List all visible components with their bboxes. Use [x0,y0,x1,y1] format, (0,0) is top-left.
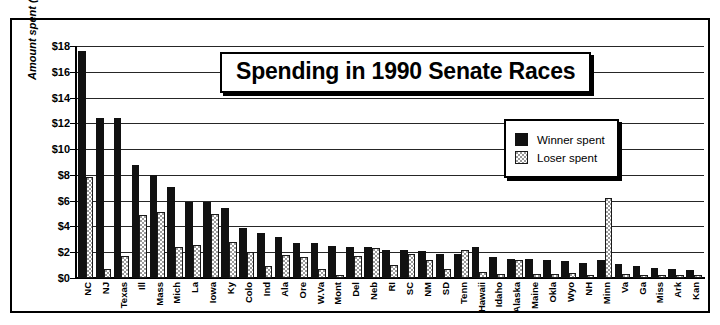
bar-loser [193,245,201,279]
x-axis-tick-label-cell: NH [579,280,597,325]
x-axis-tick-label: Maine [529,282,540,309]
x-axis-tick-label: Wyo [564,282,575,302]
bar-winner [525,259,533,278]
bar-winner [615,264,623,278]
chart-title-box: Spending in 1990 Senate Races [220,52,591,93]
bar-group [203,46,221,278]
bar-winner [597,260,605,278]
bar-loser [282,255,290,278]
x-axis-tick-label-cell: Ky [221,280,239,325]
bar-winner [346,247,354,278]
x-axis-tick-label-cell: Tenn [454,280,472,325]
x-axis-tick-label-cell: RI [382,280,400,325]
bar-loser [354,256,362,278]
bar-winner [114,118,122,278]
bar-loser [265,266,273,278]
bar-loser [658,275,666,278]
legend-label-winner: Winner spent [537,134,605,146]
x-axis-tick-label-cell: Kan [686,280,704,325]
y-axis-tick-label: $12 [30,118,70,128]
bar-winner [328,246,336,278]
x-axis-tick-label-cell: Neb [364,280,382,325]
bar-loser [86,177,94,278]
x-axis-tick-label-cell: Ala [275,280,293,325]
x-axis-tick-label: Ark [672,282,683,298]
bar-loser [229,242,237,278]
x-axis-tick-label-cell: Iowa [203,280,221,325]
bar-loser [121,256,129,278]
bar-loser [694,275,702,278]
bar-winner [167,187,175,279]
y-axis-tick-label: $10 [30,144,70,154]
bar-group [185,46,203,278]
x-axis-tick-label-cell: NM [418,280,436,325]
bar-group [114,46,132,278]
y-axis-tick-label: $18 [30,41,70,51]
x-axis-tick-label: NH [582,282,593,296]
bar-group [132,46,150,278]
bar-winner [418,251,426,278]
legend-swatch-loser-icon [515,151,528,164]
x-axis-tick-label: Del [350,282,361,297]
x-axis-tick-label: Ind [260,282,271,296]
bar-loser [211,214,219,278]
bar-winner [579,263,587,278]
x-axis-tick-label-cell: Ill [132,280,150,325]
x-axis-tick-label-cell: Ore [293,280,311,325]
x-axis-tick-label: SC [403,282,414,295]
x-axis-tick-label: Ga [636,282,647,295]
bar-loser [676,275,684,278]
bar-winner [633,266,641,278]
bar-loser [426,260,434,278]
bar-winner [203,202,211,278]
x-axis-tick-label-cell: Miss [651,280,669,325]
gridline [76,278,704,279]
x-axis-tick-label: Tenn [457,282,468,304]
bar-loser [515,260,523,278]
x-axis-tick-label: NC [81,282,92,296]
x-axis-tick-label-cell: Maine [525,280,543,325]
bar-winner [96,118,104,278]
legend-label-loser: Loser spent [537,152,597,164]
x-axis-tick-label-cell: Colo [239,280,257,325]
bar-group [668,46,686,278]
x-axis-tick-label: Iowa [207,282,218,303]
x-axis-tick-label-cell: Idaho [489,280,507,325]
y-axis-tick-label: $2 [30,247,70,257]
bar-loser [408,254,416,278]
bar-loser [139,215,147,278]
bar-winner [454,254,462,278]
x-axis-tick-label-cell: Wyo [561,280,579,325]
bar-loser [479,272,487,278]
x-axis-tick-label: Texas [117,282,128,308]
x-axis-tick-label: Ill [135,282,146,290]
bar-group [633,46,651,278]
bar-winner [239,228,247,278]
bar-winner [668,269,676,278]
x-axis-tick-label-cell: W.Va [311,280,329,325]
legend-item-loser: Loser spent [515,151,605,164]
x-axis-tick-label: Colo [242,282,253,303]
bar-winner [78,51,86,278]
bar-loser [605,198,613,278]
bar-winner [561,261,569,278]
bar-winner [257,233,265,278]
bar-loser [157,212,165,278]
bar-loser [533,274,541,278]
y-axis-tick-label: $6 [30,196,70,206]
x-axis-tick-label-cell: Va [615,280,633,325]
legend: Winner spent Loser spent [504,119,619,178]
x-axis-tick-label: Miss [654,282,665,303]
bar-winner [436,254,444,278]
bar-winner [507,259,515,278]
bar-loser [640,275,648,278]
x-axis-tick-label: Ala [278,282,289,297]
x-axis-tick-label: Neb [368,282,379,300]
bar-loser [300,257,308,278]
y-axis-tick-label: $16 [30,67,70,77]
bar-winner [489,257,497,278]
bar-loser [104,269,112,278]
figure-frame: Amount spent (in millions) $0$2$4$6$8$10… [10,18,710,313]
x-axis-tick-label-cell: NJ [96,280,114,325]
chart-title: Spending in 1990 Senate Races [236,58,575,85]
